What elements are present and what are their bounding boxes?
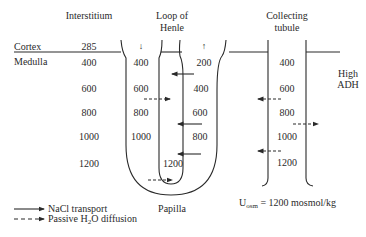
collecting-tubule-value: 600 xyxy=(280,83,295,94)
header-collecting-line1: Collecting xyxy=(266,10,308,21)
descending-limb-value: 1000 xyxy=(131,131,151,142)
descending-limb-value: 600 xyxy=(134,83,149,94)
collecting-tubule-value: 1000 xyxy=(277,131,297,142)
down-flow-arrow-icon: ↓ xyxy=(139,41,144,52)
descending-limb-value: 800 xyxy=(134,107,149,118)
collecting-tubule-value: 800 xyxy=(280,107,295,118)
region-medulla: Medulla xyxy=(14,56,47,67)
region-cortex: Cortex xyxy=(14,41,41,52)
legend-water-diffusion: Passive H2O diffusion xyxy=(48,213,137,228)
collecting-tubule-value: 1200 xyxy=(277,157,297,168)
interstitium-value: 800 xyxy=(82,107,97,118)
urine-osm-value: = 1200 mosmol/kg xyxy=(258,197,336,208)
interstitium-value: 600 xyxy=(82,83,97,94)
ascending-limb-value: 400 xyxy=(194,83,209,94)
urine-osmolality: Uosm = 1200 mosmol/kg xyxy=(239,197,336,212)
header-collecting-line2: tubule xyxy=(275,22,300,33)
interstitium-value: 400 xyxy=(82,57,97,68)
collecting-tubule-value: 400 xyxy=(280,57,295,68)
header-loop-line1: Loop of xyxy=(156,10,188,21)
interstitium-value: 1200 xyxy=(79,158,99,169)
header-interstitium: Interstitium xyxy=(66,10,113,21)
collecting-tubule-right-wall xyxy=(306,40,313,186)
legend-water-prefix: Passive H xyxy=(48,213,88,224)
adh-label-line1: High xyxy=(338,68,358,79)
region-papilla: Papilla xyxy=(158,203,186,214)
loop-bottom-value: 1200 xyxy=(163,158,183,169)
ascending-limb-value: 200 xyxy=(197,57,212,68)
adh-label-line2: ADH xyxy=(337,79,359,90)
up-flow-arrow-icon: ↑ xyxy=(202,41,207,52)
legend-water-suffix: O diffusion xyxy=(91,213,137,224)
descending-limb-value: 400 xyxy=(134,57,149,68)
ascending-limb-value: 800 xyxy=(193,131,208,142)
header-loop-line2: Henle xyxy=(160,22,184,33)
interstitium-value: 1000 xyxy=(79,131,99,142)
urine-osm-subscript: osm xyxy=(246,202,258,210)
collecting-tubule-left-wall xyxy=(262,40,268,186)
interstitium-value: 285 xyxy=(82,41,97,52)
ascending-limb-value: 600 xyxy=(193,107,208,118)
